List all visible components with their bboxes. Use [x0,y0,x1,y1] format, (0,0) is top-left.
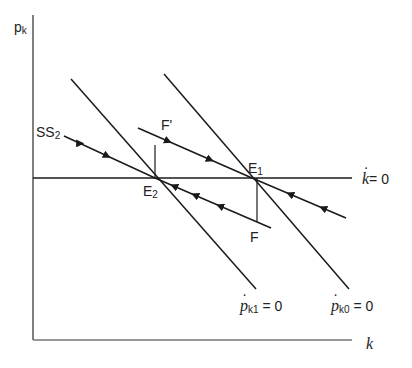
f-label: F [250,230,259,244]
pk1-dot-zero-line [71,79,256,289]
e2-label: E2 [143,184,158,200]
k-dot-zero-label: k= 0 [362,171,389,187]
pk0-dot-zero-label: pk0 = 0 [331,298,373,315]
f-prime-label: F' [161,118,172,132]
ss2-label: SS2 [36,125,60,141]
ss1-path [252,178,346,218]
x-axis-label: k [366,336,373,352]
e1-label: E1 [248,161,263,177]
f-path [155,178,271,228]
y-axis-label: pk [14,20,27,36]
pk1-dot-zero-label: pk1 = 0 [240,298,282,315]
ss2-path [64,136,155,178]
